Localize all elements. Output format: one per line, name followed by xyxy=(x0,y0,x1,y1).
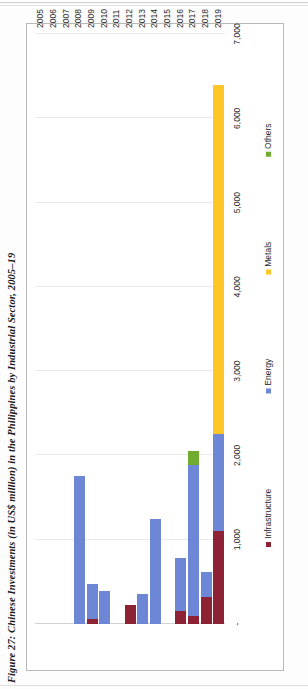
legend-swatch-others-icon xyxy=(266,152,271,157)
legend-label: Others xyxy=(263,123,273,149)
bar-segment-energy xyxy=(188,465,199,617)
figure-title: Figure 27: Chinese Investments (in US$ m… xyxy=(6,23,17,683)
chart-legend: InfrastructureEnergyMetalsOthers xyxy=(263,34,277,624)
category-label-2015: 2015 xyxy=(162,9,172,28)
bar-row xyxy=(163,34,174,624)
legend-item-energy[interactable]: Energy xyxy=(263,359,273,394)
chart-frame: -1,0002,0003,0004,0005,0006,0007,0002005… xyxy=(26,23,284,671)
value-tick-label: 7,000 xyxy=(232,23,242,44)
legend-item-others[interactable]: Others xyxy=(263,123,273,157)
value-tick-label: 6,000 xyxy=(232,108,242,129)
category-label-2012: 2012 xyxy=(124,9,134,28)
bar-row xyxy=(49,34,60,624)
scanned-page: Figure 27: Chinese Investments (in US$ m… xyxy=(0,0,308,689)
legend-item-metals[interactable]: Metals xyxy=(263,242,273,275)
legend-swatch-energy-icon xyxy=(266,389,271,394)
bar-segment-metals xyxy=(213,85,224,435)
value-tick-label: 5,000 xyxy=(232,192,242,213)
bar-row xyxy=(74,34,85,624)
bar-row xyxy=(125,34,136,624)
category-label-2007: 2007 xyxy=(61,9,71,28)
bar-row xyxy=(87,34,98,624)
bar-row xyxy=(188,34,199,624)
legend-label: Infrastructure xyxy=(263,489,273,539)
category-label-2011: 2011 xyxy=(111,10,121,28)
bar-segment-infrastructure xyxy=(125,605,136,624)
bar-row xyxy=(213,34,224,624)
legend-label: Energy xyxy=(263,359,273,386)
bar-segment-energy xyxy=(150,519,161,624)
rotated-figure: Figure 27: Chinese Investments (in US$ m… xyxy=(0,0,308,689)
bar-segment-infrastructure xyxy=(201,597,212,624)
bar-row xyxy=(201,34,212,624)
value-tick-label: 3,000 xyxy=(232,361,242,382)
bar-segment-energy xyxy=(201,572,212,597)
bar-segment-energy xyxy=(137,595,148,625)
category-label-2013: 2013 xyxy=(137,9,147,28)
value-tick-label: - xyxy=(232,623,242,626)
bar-row xyxy=(61,34,72,624)
bar-row xyxy=(175,34,186,624)
bar-row xyxy=(137,34,148,624)
bar-segment-energy xyxy=(87,584,98,619)
value-tick-label: 2,000 xyxy=(232,445,242,466)
bar-segment-energy xyxy=(74,477,85,625)
legend-label: Metals xyxy=(263,242,273,267)
bar-row xyxy=(99,34,110,624)
category-label-2014: 2014 xyxy=(149,9,159,28)
category-label-2006: 2006 xyxy=(48,9,58,28)
plot-area: -1,0002,0003,0004,0005,0006,0007,0002005… xyxy=(35,34,225,624)
bar-segment-infrastructure xyxy=(87,619,98,624)
category-label-2016: 2016 xyxy=(175,9,185,28)
bar-row xyxy=(36,34,47,624)
bar-segment-energy xyxy=(175,558,186,610)
category-label-2009: 2009 xyxy=(86,9,96,28)
value-tick-label: 4,000 xyxy=(232,276,242,297)
legend-item-infrastructure[interactable]: Infrastructure xyxy=(263,489,273,547)
category-label-2019: 2019 xyxy=(213,9,223,28)
bar-segment-infrastructure xyxy=(175,611,186,624)
category-label-2010: 2010 xyxy=(99,9,109,28)
bar-row xyxy=(150,34,161,624)
legend-swatch-infrastructure-icon xyxy=(266,542,271,547)
bar-segment-infrastructure xyxy=(188,616,199,624)
bar-row xyxy=(112,34,123,624)
category-label-2017: 2017 xyxy=(187,9,197,28)
bar-segment-energy xyxy=(213,434,224,531)
bar-segment-energy xyxy=(99,591,110,624)
category-label-2018: 2018 xyxy=(200,9,210,28)
legend-swatch-metals-icon xyxy=(266,270,271,275)
category-label-2008: 2008 xyxy=(73,9,83,28)
bar-segment-others xyxy=(188,451,199,464)
bar-segment-infrastructure xyxy=(213,531,224,624)
value-tick-label: 1,000 xyxy=(232,529,242,550)
category-label-2005: 2005 xyxy=(35,9,45,28)
